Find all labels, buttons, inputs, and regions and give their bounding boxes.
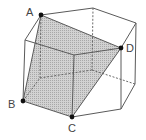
label-a: A xyxy=(26,6,34,18)
point-b-marker xyxy=(21,99,26,104)
label-c: C xyxy=(68,122,76,134)
point-a-marker xyxy=(39,13,44,18)
label-d: D xyxy=(126,42,134,54)
label-b: B xyxy=(8,98,15,110)
hexagonal-prism-diagram: A B C D xyxy=(0,0,146,140)
point-d-marker xyxy=(119,46,124,51)
point-c-marker xyxy=(70,115,75,120)
